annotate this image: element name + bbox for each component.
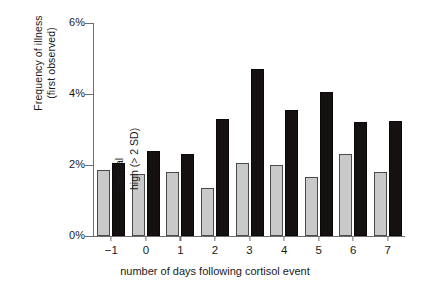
bar-normal: [236, 163, 249, 236]
bar-group: [163, 23, 198, 236]
x-tick-mark: [214, 237, 215, 241]
x-tick-mark: [353, 237, 354, 241]
bar-high-2-sd: [320, 92, 333, 236]
x-tick: −1: [94, 237, 129, 256]
bar-high-2-sd: [389, 121, 402, 236]
x-tick: 0: [129, 237, 164, 256]
x-axis-title: number of days following cortisol event: [0, 265, 430, 277]
bar-normal: [97, 170, 110, 236]
bar-group: [301, 23, 336, 236]
x-tick: 2: [198, 237, 233, 256]
x-tick-mark: [318, 237, 319, 241]
x-tick: 5: [301, 237, 336, 256]
bar-chart: Frequency of illness (first observed) 0%…: [0, 0, 430, 291]
bar-normal: [339, 154, 352, 236]
y-tick-mark: [85, 94, 93, 95]
legend-label-normal: normal: [113, 158, 125, 190]
bar-normal: [201, 188, 214, 236]
bar-high-2-sd: [216, 119, 229, 236]
bar-normal: [270, 165, 283, 236]
x-tick: 1: [163, 237, 198, 256]
x-axis-ticks: −101234567: [94, 237, 405, 256]
y-tick-label: 4%: [51, 87, 85, 99]
bar-normal: [374, 172, 387, 236]
y-tick-mark: [85, 236, 93, 237]
bar-high-2-sd: [147, 151, 160, 236]
bar-high-2-sd: [285, 110, 298, 236]
x-tick-mark: [284, 237, 285, 241]
x-tick: 6: [336, 237, 371, 256]
y-tick-label: 0%: [51, 229, 85, 241]
legend-label-high: high (> 2 SD): [128, 128, 140, 190]
x-tick: 7: [371, 237, 406, 256]
x-tick: 4: [267, 237, 302, 256]
bar-normal: [305, 177, 318, 236]
bar-group: [198, 23, 233, 236]
x-tick-mark: [180, 237, 181, 241]
bar-group: [336, 23, 371, 236]
bar-high-2-sd: [354, 122, 367, 236]
x-tick-mark: [145, 237, 146, 241]
y-tick-label: 2%: [51, 158, 85, 170]
x-tick-mark: [111, 237, 112, 241]
bar-high-2-sd: [181, 154, 194, 236]
bar-groups: [94, 23, 405, 236]
y-tick-mark: [85, 165, 93, 166]
bar-group: [232, 23, 267, 236]
bar-group: [267, 23, 302, 236]
bar-normal: [166, 172, 179, 236]
y-tick-mark: [85, 23, 93, 24]
bar-group: [94, 23, 129, 236]
x-tick: 3: [232, 237, 267, 256]
bar-group: [371, 23, 406, 236]
bar-high-2-sd: [251, 69, 264, 236]
x-tick-mark: [249, 237, 250, 241]
y-tick-label: 6%: [51, 16, 85, 28]
x-tick-mark: [387, 237, 388, 241]
